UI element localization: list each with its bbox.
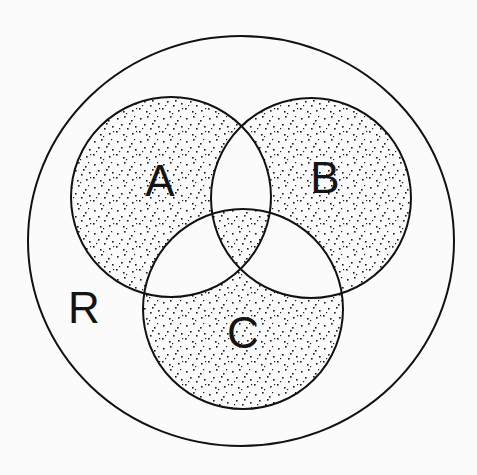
- set-c-label: C: [227, 308, 259, 357]
- set-b-label: B: [310, 153, 339, 202]
- shaded-region: [71, 97, 411, 409]
- universe-label: R: [68, 283, 100, 332]
- set-a-label: A: [145, 156, 175, 205]
- venn-diagram: A B C R: [0, 0, 477, 475]
